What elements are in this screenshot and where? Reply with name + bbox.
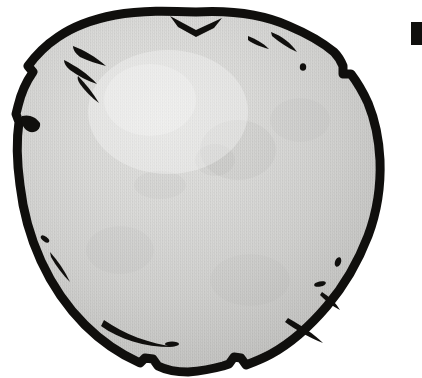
caption-glyph bbox=[411, 22, 422, 45]
figure-page bbox=[0, 0, 422, 378]
chip-mark-bottom-dot bbox=[165, 341, 179, 346]
stone-illustration bbox=[0, 0, 422, 378]
chip-mark-upper-right-dot bbox=[300, 63, 306, 71]
